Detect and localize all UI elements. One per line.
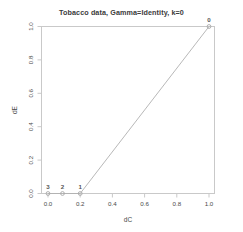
x-axis-ticks (48, 194, 209, 198)
x-tick-label: 0.8 (172, 200, 181, 207)
data-point-label: 2 (61, 183, 65, 190)
x-axis-tick-labels: 0.0 0.2 0.4 0.6 0.8 1.0 (44, 200, 214, 207)
x-tick-label: 1.0 (205, 200, 214, 207)
y-tick-label: 0.6 (27, 88, 34, 97)
data-point-label: 3 (46, 183, 50, 190)
y-tick-label: 0.8 (27, 55, 34, 64)
x-tick-label: 0.6 (140, 200, 149, 207)
y-axis-title: dE (11, 105, 18, 114)
x-tick-label: 0.0 (44, 200, 53, 207)
y-axis-ticks (38, 27, 42, 194)
y-tick-label: 0.0 (27, 189, 34, 198)
y-tick-label: 1.0 (27, 22, 34, 31)
y-tick-label: 0.4 (27, 122, 34, 131)
x-axis-title: dC (124, 216, 133, 223)
y-tick-label: 0.2 (27, 155, 34, 164)
plot-canvas: 0.0 0.2 0.4 0.6 0.8 1.0 0.0 0.2 0.4 0.6 … (0, 0, 243, 232)
y-axis-tick-labels: 0.0 0.2 0.4 0.6 0.8 1.0 (27, 22, 34, 198)
x-tick-label: 0.4 (108, 200, 117, 207)
plot-frame (42, 27, 215, 194)
chart-figure: Tobacco data, Gamma=Identity, k=0 0.0 0.… (0, 0, 243, 232)
x-tick-label: 0.2 (76, 200, 85, 207)
data-point-label: 1 (78, 183, 82, 190)
data-point-label: 0 (207, 16, 211, 23)
